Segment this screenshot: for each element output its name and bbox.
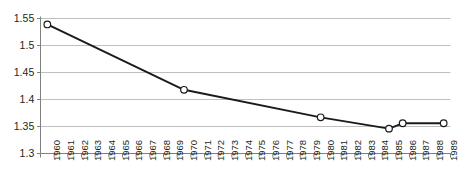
x-axis-tick-label: 1963 bbox=[92, 139, 103, 160]
x-axis-tick-label: 1968 bbox=[161, 139, 172, 160]
data-point-marker bbox=[317, 114, 324, 121]
x-axis-tick-label: 1982 bbox=[352, 139, 363, 160]
x-axis-tick-label: 1965 bbox=[120, 139, 131, 160]
x-axis-tick-label: 1980 bbox=[325, 139, 336, 160]
x-axis-tick-label: 1989 bbox=[448, 139, 459, 160]
x-axis-tick-label: 1969 bbox=[174, 139, 185, 160]
x-axis-tick-label: 1977 bbox=[284, 139, 295, 160]
x-axis-tick-label: 1986 bbox=[407, 139, 418, 160]
x-axis-tick-label: 1975 bbox=[256, 139, 267, 160]
x-axis-tick-label: 1970 bbox=[188, 139, 199, 160]
x-axis-tick-label: 1971 bbox=[202, 139, 213, 160]
x-axis-tick-label: 1988 bbox=[434, 139, 445, 160]
data-markers bbox=[44, 21, 447, 132]
axis-lines bbox=[37, 17, 451, 154]
data-point-marker bbox=[44, 21, 51, 28]
x-axis-tick-label: 1981 bbox=[338, 139, 349, 160]
data-point-marker bbox=[181, 86, 188, 93]
data-point-marker bbox=[386, 125, 393, 132]
data-line bbox=[47, 24, 443, 128]
x-axis-tick-label: 1960 bbox=[51, 139, 62, 160]
data-point-marker bbox=[440, 120, 447, 127]
data-point-marker bbox=[399, 120, 406, 127]
x-axis-tick-label: 1984 bbox=[379, 139, 390, 160]
x-axis-tick-label: 1964 bbox=[106, 139, 117, 160]
x-axis-tick-label: 1962 bbox=[79, 139, 90, 160]
x-axis-tick-label: 1985 bbox=[393, 139, 404, 160]
x-axis-tick-label: 1961 bbox=[65, 139, 76, 160]
gridlines bbox=[41, 19, 451, 127]
x-axis-tick-label: 1967 bbox=[147, 139, 158, 160]
x-axis-tick-label: 1978 bbox=[297, 139, 308, 160]
series-polyline bbox=[47, 24, 443, 128]
x-axis-tick-label: 1976 bbox=[270, 139, 281, 160]
x-axis-tick-label: 1972 bbox=[215, 139, 226, 160]
x-axis-tick-label: 1987 bbox=[420, 139, 431, 160]
x-axis-tick-label: 1979 bbox=[311, 139, 322, 160]
x-axis-tick-label: 1974 bbox=[243, 139, 254, 160]
x-axis-tick-label: 1966 bbox=[133, 139, 144, 160]
x-axis-tick-label: 1973 bbox=[229, 139, 240, 160]
x-axis-tick-label: 1983 bbox=[366, 139, 377, 160]
